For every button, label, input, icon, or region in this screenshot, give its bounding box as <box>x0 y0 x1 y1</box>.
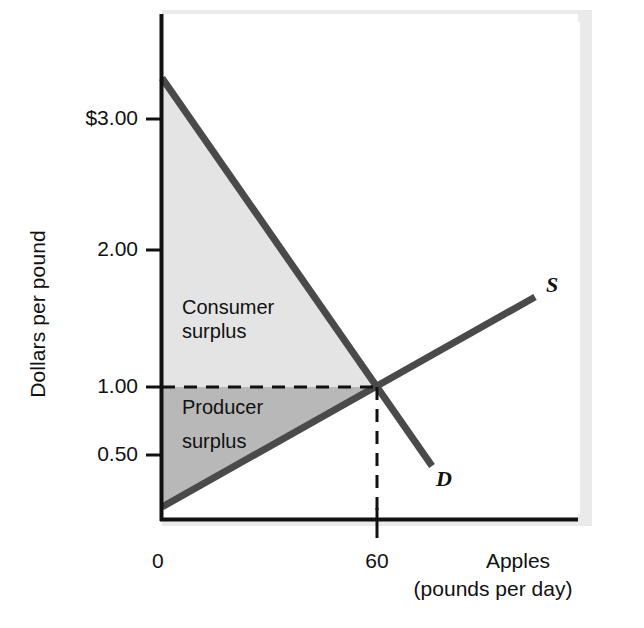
y-tick-label-2: 2.00 <box>34 237 138 261</box>
origin-label: 0 <box>152 549 164 573</box>
x-tick-label-60: 60 <box>337 549 417 573</box>
y-axis-title-wrap: Dollars per pound <box>8 0 56 628</box>
supply-curve-label: S <box>546 272 558 298</box>
producer-surplus-label-line1: Producer <box>182 396 263 420</box>
consumer-surplus-label-line2: surplus <box>182 320 246 344</box>
y-tick-label-1: 1.00 <box>34 374 138 398</box>
y-tick-label-0-50: 0.50 <box>34 442 138 466</box>
y-tick-label-3: $3.00 <box>34 106 138 130</box>
x-axis-title-line1: Apples <box>438 549 598 573</box>
supply-demand-figure: Dollars per pound $3.00 2.00 1.00 0.50 0… <box>0 0 644 628</box>
producer-surplus-label-line2: surplus <box>182 430 246 454</box>
chart-canvas <box>0 0 644 628</box>
x-axis-title-line2: (pounds per day) <box>378 577 608 601</box>
demand-curve-label: D <box>436 466 452 492</box>
consumer-surplus-label-line1: Consumer <box>182 296 274 320</box>
